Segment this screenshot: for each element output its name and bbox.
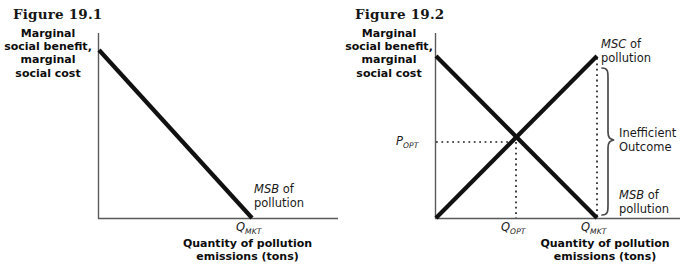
- figure-2-popt-tick-label: POPT: [396, 134, 418, 150]
- qmkt-symbol: Q: [236, 220, 245, 234]
- popt-symbol: P: [396, 134, 403, 148]
- qopt-subscript: OPT: [510, 227, 526, 236]
- x-axis-label-line-2: emissions (tons): [160, 250, 335, 263]
- msb-of: of: [279, 182, 294, 196]
- qmkt-subscript: MKT: [245, 227, 261, 236]
- figure-2-msb-curve-label: MSB of pollution: [619, 189, 669, 216]
- msb-label-line-2: pollution: [254, 197, 304, 211]
- x-axis-label-line-1: Quantity of pollution: [160, 237, 335, 250]
- inefficient-outcome-label: Inefficient Outcome: [619, 126, 676, 154]
- figure-2-qopt-tick-label: QOPT: [501, 220, 526, 236]
- figure-1-msb-curve-label: MSB of pollution: [254, 183, 304, 210]
- msc-abbrev: MSC: [601, 37, 626, 51]
- msb-curve: [99, 50, 252, 218]
- x-axis-label-line-2: emissions (tons): [526, 250, 684, 263]
- qmkt-subscript: MKT: [590, 227, 606, 236]
- figure-1-x-axis-label: Quantity of pollution emissions (tons): [160, 237, 335, 264]
- x-axis-label-line-1: Quantity of pollution: [526, 237, 684, 250]
- figure-2-msc-curve-label: MSC of pollution: [601, 38, 651, 65]
- msb-abbrev: MSB: [254, 182, 279, 196]
- figure-19-1: Figure 19.1 Marginal social benefit, mar…: [0, 0, 344, 275]
- msb-abbrev: MSB: [619, 188, 644, 202]
- figure-1-plot-area: [0, 0, 344, 275]
- figure-19-2: Figure 19.2 Marginal social benefit, mar…: [343, 0, 687, 275]
- msb-of: of: [644, 188, 659, 202]
- qmkt-symbol: Q: [581, 220, 590, 234]
- inefficient-outcome-bracket: [602, 68, 614, 215]
- msc-of: of: [626, 37, 641, 51]
- qopt-symbol: Q: [501, 220, 510, 234]
- inefficient-outcome-line-1: Inefficient: [619, 126, 676, 140]
- msb-label-line-2: pollution: [619, 203, 669, 217]
- msc-label-line-2: pollution: [601, 52, 651, 66]
- inefficient-outcome-line-2: Outcome: [619, 140, 676, 154]
- popt-subscript: OPT: [403, 141, 419, 150]
- figure-2-qmkt-tick-label: QMKT: [581, 220, 607, 236]
- figure-2-x-axis-label: Quantity of pollution emissions (tons): [526, 237, 684, 264]
- figure-1-qmkt-tick-label: QMKT: [236, 220, 262, 236]
